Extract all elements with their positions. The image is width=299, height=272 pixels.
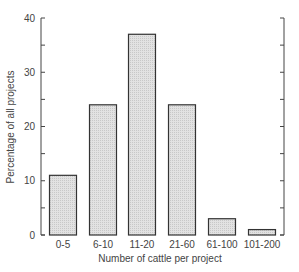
x-tick-label: 0-5 [56,239,71,250]
x-axis-title: Number of cattle per project [98,253,222,264]
y-tick-label: 10 [24,175,36,186]
y-axis-title: Percentage of all projects [5,71,16,184]
x-tick-label: 21-60 [169,239,195,250]
y-tick-label: 0 [29,230,35,241]
y-tick-label: 30 [24,67,36,78]
bar [209,219,236,235]
bar [50,175,77,235]
bar [90,105,117,235]
x-tick-label: 11-20 [130,239,155,250]
x-tick-label: 101-200 [244,239,281,250]
y-tick-label: 40 [24,13,36,24]
x-tick-label: 6-10 [93,239,113,250]
bar [169,105,196,235]
bar-chart: 0102030400-56-1011-2021-6061-100101-200 … [0,0,299,272]
x-tick-label: 61-100 [206,239,238,250]
bar [249,230,276,235]
plot-area: 0102030400-56-1011-2021-6061-100101-200 [24,13,284,251]
bar [129,34,156,235]
y-tick-label: 20 [24,121,36,132]
